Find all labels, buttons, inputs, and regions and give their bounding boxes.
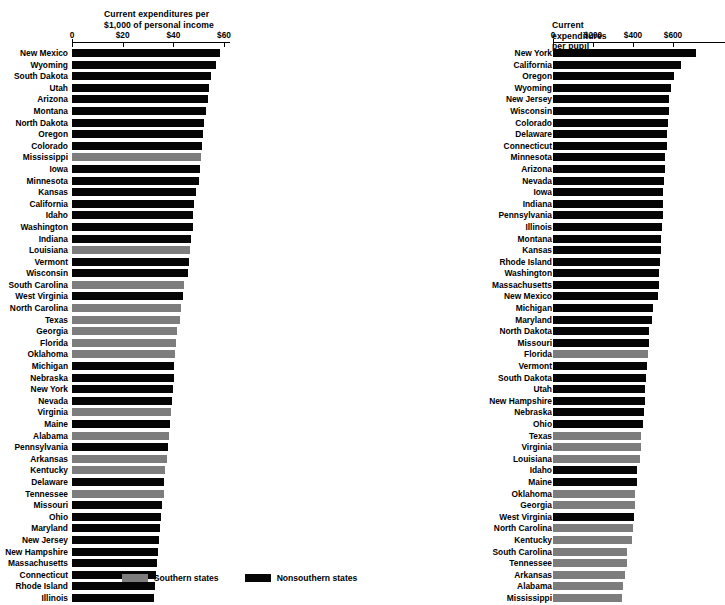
bar-row[interactable]: Louisiana xyxy=(0,245,240,257)
bar-row[interactable]: Indiana xyxy=(480,199,719,211)
bar-row[interactable]: South Dakota xyxy=(480,373,719,385)
bar-row[interactable]: Delaware xyxy=(480,129,719,141)
bar-row[interactable]: Tennessee xyxy=(0,489,240,501)
bar-row[interactable]: California xyxy=(0,199,240,211)
bar-row[interactable]: Massachusetts xyxy=(480,280,719,292)
bar-row[interactable]: Ohio xyxy=(480,419,719,431)
bar-row[interactable]: Missouri xyxy=(0,500,240,512)
bar-row[interactable]: Texas xyxy=(480,431,719,443)
bar-row[interactable]: North Dakota xyxy=(0,118,240,130)
bar-row[interactable]: Florida xyxy=(480,349,719,361)
bar-row[interactable]: Oregon xyxy=(480,71,719,83)
bar-row[interactable]: Minnesota xyxy=(0,176,240,188)
x-axis-tick-label: $40 xyxy=(166,30,180,40)
bar-row[interactable]: Maine xyxy=(0,419,240,431)
bar-nonsouth xyxy=(72,142,202,150)
bar-row[interactable]: Montana xyxy=(0,106,240,118)
bar-row[interactable]: Georgia xyxy=(480,500,719,512)
bar-row[interactable]: Virginia xyxy=(480,442,719,454)
bar-row[interactable]: Connecticut xyxy=(480,141,719,153)
bar-row[interactable]: Pennsylvania xyxy=(0,442,240,454)
bar-row[interactable]: Nebraska xyxy=(0,373,240,385)
bar-row[interactable]: Louisiana xyxy=(480,454,719,466)
bar-row[interactable]: New Jersey xyxy=(480,94,719,106)
bar-row[interactable]: Oklahoma xyxy=(0,349,240,361)
bar-row[interactable]: Virginia xyxy=(0,407,240,419)
bar-row[interactable]: Colorado xyxy=(0,141,240,153)
bar-nonsouth xyxy=(553,420,643,428)
bar-row[interactable]: Kentucky xyxy=(0,465,240,477)
bar-row[interactable]: Montana xyxy=(480,234,719,246)
bar-row[interactable]: Mississippi xyxy=(480,593,719,605)
bar-row[interactable]: Vermont xyxy=(0,257,240,269)
bar-row[interactable]: California xyxy=(480,60,719,72)
bar-row[interactable]: Utah xyxy=(480,384,719,396)
bar-row[interactable]: Arkansas xyxy=(480,570,719,582)
bar-row[interactable]: Georgia xyxy=(0,326,240,338)
bar-row[interactable]: New Mexico xyxy=(480,291,719,303)
bar-row[interactable]: Wyoming xyxy=(480,83,719,95)
bar-row[interactable]: West Virginia xyxy=(480,512,719,524)
bar-row[interactable]: Kansas xyxy=(480,245,719,257)
bar-row[interactable]: West Virginia xyxy=(0,291,240,303)
bar-row[interactable]: New York xyxy=(480,48,719,60)
bar-row[interactable]: Arizona xyxy=(0,94,240,106)
bar-row[interactable]: Indiana xyxy=(0,234,240,246)
bar-row[interactable]: Illinois xyxy=(480,222,719,234)
bar-row[interactable]: Maryland xyxy=(480,315,719,327)
bar-row[interactable]: Oklahoma xyxy=(480,489,719,501)
bar-row[interactable]: Massachusetts xyxy=(0,558,240,570)
bar-row-label: New York xyxy=(480,48,552,58)
bar-row[interactable]: Mississippi xyxy=(0,152,240,164)
bar-row[interactable]: Michigan xyxy=(480,303,719,315)
bar-row[interactable]: Kentucky xyxy=(480,535,719,547)
bar-row[interactable]: Iowa xyxy=(0,164,240,176)
bar-row[interactable]: Iowa xyxy=(480,187,719,199)
bar-row[interactable]: Vermont xyxy=(480,361,719,373)
bar-row[interactable]: Washington xyxy=(0,222,240,234)
bar-row[interactable]: Texas xyxy=(0,315,240,327)
bar-row[interactable]: Florida xyxy=(0,338,240,350)
bar-row[interactable]: Utah xyxy=(0,83,240,95)
bar-row[interactable]: New York xyxy=(0,384,240,396)
bar-row[interactable]: Tennessee xyxy=(480,558,719,570)
bar-row[interactable]: New Jersey xyxy=(0,535,240,547)
bar-row[interactable]: South Carolina xyxy=(0,280,240,292)
bar-row[interactable]: Michigan xyxy=(0,361,240,373)
bar-row[interactable]: Minnesota xyxy=(480,152,719,164)
bar-row[interactable]: North Carolina xyxy=(0,303,240,315)
bar-row[interactable]: Arkansas xyxy=(0,454,240,466)
bar-row[interactable]: Washington xyxy=(480,268,719,280)
bar-row[interactable]: New Hampshire xyxy=(480,396,719,408)
bar-row[interactable]: South Carolina xyxy=(480,547,719,559)
bar-row[interactable]: Colorado xyxy=(480,118,719,130)
bar-row[interactable]: Pennsylvania xyxy=(480,210,719,222)
bar-row[interactable]: Missouri xyxy=(480,338,719,350)
bar-row[interactable]: Ohio xyxy=(0,512,240,524)
bar-row[interactable]: Wyoming xyxy=(0,60,240,72)
bar-row[interactable]: Illinois xyxy=(0,593,240,605)
bar-row[interactable]: Nevada xyxy=(480,176,719,188)
bar-row[interactable]: Rhode Island xyxy=(480,257,719,269)
bar-row[interactable]: Oregon xyxy=(0,129,240,141)
bar-row[interactable]: New Mexico xyxy=(0,48,240,60)
bar-row[interactable]: South Dakota xyxy=(0,71,240,83)
bar-nonsouth xyxy=(553,385,645,393)
bar-row[interactable]: Nevada xyxy=(0,396,240,408)
bar-row[interactable]: Maryland xyxy=(0,523,240,535)
bar-row[interactable]: Kansas xyxy=(0,187,240,199)
bar-row[interactable]: North Dakota xyxy=(480,326,719,338)
bar-row[interactable]: New Hampshire xyxy=(0,547,240,559)
bar-row[interactable]: Alabama xyxy=(480,581,719,593)
bar-row[interactable]: Nebraska xyxy=(480,407,719,419)
bar-row[interactable]: Wisconsin xyxy=(480,106,719,118)
bar-row[interactable]: Idaho xyxy=(480,465,719,477)
bar-row[interactable]: Delaware xyxy=(0,477,240,489)
bar-row[interactable]: Idaho xyxy=(0,210,240,222)
bar-row[interactable]: Arizona xyxy=(480,164,719,176)
bar-row[interactable]: North Carolina xyxy=(480,523,719,535)
bar-row[interactable]: Wisconsin xyxy=(0,268,240,280)
bar-row[interactable]: Alabama xyxy=(0,431,240,443)
bar-row[interactable]: Maine xyxy=(480,477,719,489)
